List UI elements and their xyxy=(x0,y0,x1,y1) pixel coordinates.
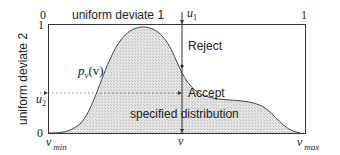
specified-distribution-label: specified distribution xyxy=(130,107,239,121)
u2-arrow-icon xyxy=(44,91,48,95)
v-label: v xyxy=(178,134,184,148)
pv-curve-label: pv(v) xyxy=(77,63,104,80)
v-min-label: vmin xyxy=(46,135,67,152)
curve-intersection-dot xyxy=(180,64,183,67)
u1-arrow-icon xyxy=(180,20,184,24)
reject-label: Reject xyxy=(188,39,223,53)
top-tick-1: 1 xyxy=(301,8,307,22)
left-tick-0: 0 xyxy=(37,126,43,140)
left-tick-1: 1 xyxy=(38,18,44,32)
accept-label: Accept xyxy=(188,86,225,100)
uniform-deviate-2-label: uniform deviate 2 xyxy=(16,33,30,125)
uniform-deviate-1-label: uniform deviate 1 xyxy=(72,8,164,22)
rejection-method-diagram: 0 uniform deviate 1 u1 1 1 0 uniform dev… xyxy=(0,0,340,155)
v-max-label: vmax xyxy=(297,135,319,152)
u1-label: u1 xyxy=(187,6,197,22)
